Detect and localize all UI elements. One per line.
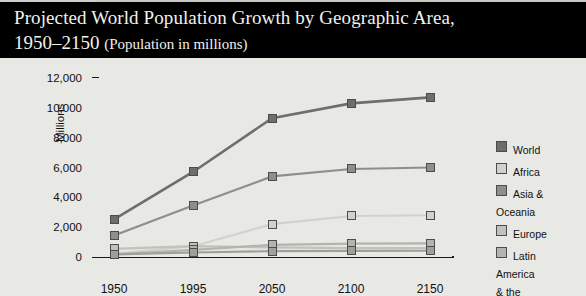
legend-swatch xyxy=(496,225,507,236)
legend-label: Africa xyxy=(513,166,540,178)
data-point-marker xyxy=(110,250,119,259)
legend-swatch xyxy=(496,141,507,152)
legend-item[interactable]: Asia & Oceania xyxy=(496,184,582,220)
title-banner: Projected World Population Growth by Geo… xyxy=(0,2,586,58)
chart-legend: WorldAfricaAsia & OceaniaEuropeLatin Ame… xyxy=(496,140,582,296)
data-point-marker xyxy=(189,201,198,210)
y-axis-label: 6,000 xyxy=(18,163,82,173)
data-point-marker xyxy=(426,211,435,220)
data-point-marker xyxy=(347,99,356,108)
data-point-marker xyxy=(110,215,119,224)
x-axis-label: 1995 xyxy=(163,282,223,296)
legend-label: Europe xyxy=(513,228,547,240)
data-point-marker xyxy=(189,248,198,257)
title-line-2: 1950–2150 (Population in millions) xyxy=(14,30,586,57)
data-point-marker xyxy=(268,220,277,229)
x-axis-label: 2050 xyxy=(242,282,302,296)
legend-swatch xyxy=(496,185,507,196)
title-line-1: Projected World Population Growth by Geo… xyxy=(14,5,586,30)
data-point-marker xyxy=(426,246,435,255)
title-year-range: 1950–2150 xyxy=(14,32,100,53)
x-axis-label: 2150 xyxy=(400,282,460,296)
legend-swatch xyxy=(496,163,507,174)
legend-item[interactable]: World xyxy=(496,140,582,158)
y-axis-label: 0 xyxy=(18,252,82,262)
data-point-marker xyxy=(268,114,277,123)
plot-area: Millions Year 12,00010,0008,0006,0004,00… xyxy=(92,78,452,257)
y-axis-label: 8,000 xyxy=(18,133,82,143)
y-axis-label: 12,000 xyxy=(18,73,82,83)
data-point-marker xyxy=(426,93,435,102)
data-point-marker xyxy=(268,247,277,256)
y-axis-label: 4,000 xyxy=(18,192,82,202)
chart-page: Projected World Population Growth by Geo… xyxy=(0,0,586,296)
y-axis-label: 10,000 xyxy=(18,103,82,113)
chart-card: Millions Year 12,00010,0008,0006,0004,00… xyxy=(0,58,586,296)
y-axis-label: 2,000 xyxy=(18,222,82,232)
legend-label: World xyxy=(513,144,540,156)
legend-item[interactable]: Latin America & the Caribbean xyxy=(496,246,582,296)
data-point-marker xyxy=(189,167,198,176)
legend-item[interactable]: Europe xyxy=(496,224,582,242)
data-point-marker xyxy=(347,246,356,255)
series-lines xyxy=(92,78,452,257)
data-point-marker xyxy=(347,211,356,220)
data-point-marker xyxy=(110,231,119,240)
legend-swatch xyxy=(496,247,507,258)
x-axis-label: 1950 xyxy=(84,282,144,296)
data-point-marker xyxy=(268,172,277,181)
legend-item[interactable]: Africa xyxy=(496,162,582,180)
title-subtitle: (Population in millions) xyxy=(104,36,247,52)
data-point-marker xyxy=(426,163,435,172)
x-axis-label: 2100 xyxy=(321,282,381,296)
data-point-marker xyxy=(347,164,356,173)
